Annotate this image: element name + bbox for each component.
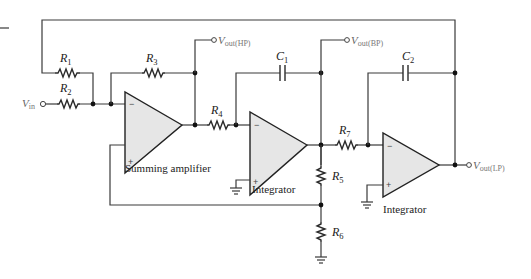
label-r1: R1 (59, 51, 72, 67)
label-vout-lp: Vout(LP) (473, 159, 505, 173)
resistor-r3 (142, 69, 165, 77)
caption-integrator-1: Integrator (252, 183, 296, 195)
junction-node (91, 102, 96, 107)
vout-bp-terminal[interactable] (345, 38, 350, 43)
caption-summing-amplifier: Summing amplifier (125, 162, 211, 174)
svg-text:−: − (254, 120, 259, 130)
svg-text:−: − (387, 141, 392, 151)
vin-terminal[interactable] (40, 101, 45, 106)
junction-node (453, 163, 458, 168)
label-r3: R3 (145, 51, 158, 67)
state-variable-filter-schematic: R1 Vin R2 R3 Vout(HP) − + Summing amplif… (0, 0, 531, 279)
resistor-r1 (55, 69, 80, 77)
junction-node (319, 203, 324, 208)
label-r5: R5 (331, 169, 344, 185)
capacitor-c1 (280, 65, 285, 81)
vout-hp-terminal[interactable] (212, 38, 217, 43)
svg-text:−: − (129, 99, 134, 109)
ground-icon (315, 257, 327, 263)
vout-lp-terminal[interactable] (467, 163, 472, 168)
label-r4: R4 (210, 103, 223, 119)
label-c2: C2 (402, 49, 414, 65)
resistor-r7 (335, 141, 358, 149)
capacitor-c2 (403, 65, 408, 81)
caption-integrator-2: Integrator (383, 203, 427, 215)
junction-node (453, 71, 458, 76)
resistor-r5 (317, 166, 325, 186)
resistor-r2 (57, 100, 80, 108)
label-vout-bp: Vout(BP) (351, 34, 383, 48)
label-vout-hp: Vout(HP) (218, 34, 251, 48)
label-r2: R2 (59, 81, 72, 97)
ground-icon (230, 188, 242, 194)
junction-node (193, 123, 198, 128)
label-r6: R6 (331, 225, 344, 241)
label-r7: R7 (338, 123, 351, 139)
label-c1: C1 (276, 49, 288, 65)
svg-text:+: + (386, 180, 391, 190)
resistor-r4 (207, 121, 230, 129)
ground-icon (361, 202, 373, 208)
resistor-r6 (317, 222, 325, 242)
label-vin: Vin (22, 97, 35, 111)
